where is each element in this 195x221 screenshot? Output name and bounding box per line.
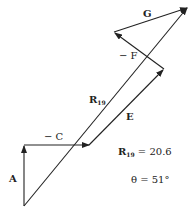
result-angle: θ = 51° [131, 175, 169, 185]
result-magnitude: R19 = 20.6 [118, 147, 172, 158]
label-neg-f: − F [119, 51, 138, 61]
vector-diagram [0, 0, 195, 221]
label-neg-c: − C [44, 132, 63, 142]
label-g: G [143, 9, 152, 19]
label-e: E [126, 112, 134, 122]
label-r19: R19 [89, 95, 106, 106]
label-a: A [9, 174, 17, 184]
